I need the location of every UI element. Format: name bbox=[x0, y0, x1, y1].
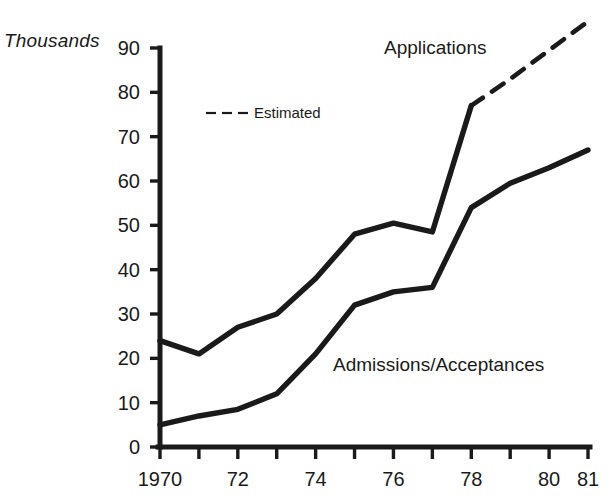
chart-axes bbox=[150, 48, 590, 459]
y-axis-tick-label: 30 bbox=[96, 304, 140, 324]
y-axis-tick-label: 70 bbox=[96, 127, 140, 147]
series-label-admissions: Admissions/Acceptances bbox=[333, 355, 544, 374]
x-axis-tick-label: 74 bbox=[305, 469, 327, 489]
chart-container: Thousands 0102030405060708090 1970727476… bbox=[0, 0, 616, 498]
y-axis-tick-label: 0 bbox=[96, 437, 140, 457]
series-line-2 bbox=[160, 150, 588, 425]
x-axis-tick-label: 72 bbox=[227, 469, 249, 489]
series-line-0 bbox=[160, 106, 471, 354]
y-axis-tick-label: 40 bbox=[96, 260, 140, 280]
y-axis-tick-label: 20 bbox=[96, 348, 140, 368]
y-axis-tick-label: 90 bbox=[96, 38, 140, 58]
y-axis-tick-label: 10 bbox=[96, 393, 140, 413]
x-axis-tick-label: 78 bbox=[460, 469, 482, 489]
y-axis-tick-label: 50 bbox=[96, 215, 140, 235]
x-axis-tick-label: 76 bbox=[382, 469, 404, 489]
x-axis-tick-label: 1970 bbox=[138, 469, 183, 489]
x-axis-tick-label: 80 bbox=[538, 469, 560, 489]
chart-plot-area bbox=[0, 0, 616, 498]
series-line-1 bbox=[471, 21, 588, 105]
y-axis-tick-label: 60 bbox=[96, 171, 140, 191]
y-axis-tick-label: 80 bbox=[96, 82, 140, 102]
x-axis-tick-label: 81 bbox=[577, 469, 599, 489]
series-label-applications: Applications bbox=[384, 38, 486, 57]
legend-estimated-label: Estimated bbox=[254, 105, 321, 120]
